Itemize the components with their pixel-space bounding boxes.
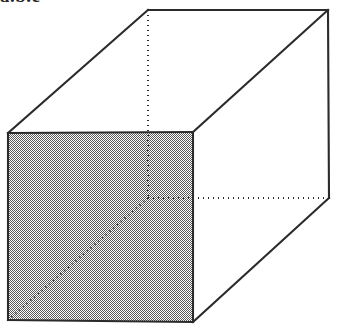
caption-fragment-text: a.b.c xyxy=(0,0,41,5)
back-right-edge xyxy=(328,10,329,198)
caption-fragment-clip: a.b.c xyxy=(0,0,60,8)
front-top-edge xyxy=(8,132,193,133)
cube-drawing-svg xyxy=(0,0,338,326)
cube-figure: a.b.c xyxy=(0,0,338,326)
shaded-front-face xyxy=(8,132,193,322)
